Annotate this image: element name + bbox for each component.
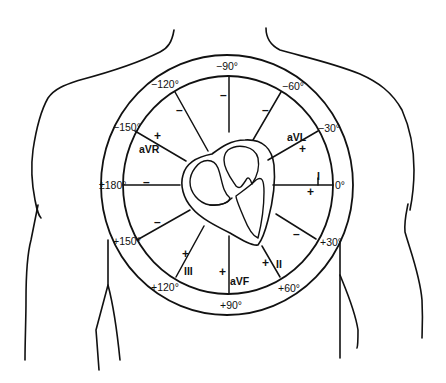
minus-sign-m120: – bbox=[176, 103, 183, 117]
lead-label-ii: II bbox=[276, 258, 282, 270]
heart-illustration bbox=[182, 140, 275, 245]
spoke-p150 bbox=[137, 210, 190, 240]
minus-sign-m60: – bbox=[262, 103, 269, 117]
axis-spokes bbox=[123, 76, 333, 293]
plus-sign-avf: + bbox=[219, 265, 226, 279]
hexaxial-diagram: −90° −60° −30° 0° +30° +60° +90° +120° +… bbox=[0, 0, 446, 383]
angle-label-m150: −150° bbox=[113, 121, 141, 133]
left-arm-outer bbox=[25, 205, 38, 360]
right-arm-inner bbox=[340, 275, 358, 348]
plus-sign-ii: + bbox=[262, 256, 269, 270]
minus-sign-m90: – bbox=[220, 88, 227, 102]
angle-label-m120: −120° bbox=[151, 78, 179, 90]
left-torso-side bbox=[96, 240, 108, 370]
lead-label-iii: III bbox=[184, 265, 193, 277]
angle-label-p30: +30° bbox=[320, 236, 342, 248]
angle-label-p120: +120° bbox=[151, 281, 179, 293]
angle-label-m90: −90° bbox=[216, 60, 238, 72]
lead-label-avf: aVF bbox=[230, 275, 250, 287]
angle-label-m30: −30° bbox=[318, 122, 340, 134]
lead-label-avr: aVR bbox=[139, 143, 160, 155]
angle-label-p60: +60° bbox=[278, 282, 300, 294]
plus-sign-avl: + bbox=[299, 142, 306, 156]
minus-sign-180: – bbox=[143, 175, 150, 189]
spoke-m120 bbox=[175, 92, 208, 151]
angle-label-0: 0° bbox=[335, 179, 345, 191]
angle-label-m60: −60° bbox=[282, 80, 304, 92]
angle-label-p150: +150° bbox=[113, 235, 141, 247]
minus-sign-p150: – bbox=[154, 215, 161, 229]
right-arm-outer bbox=[405, 204, 423, 338]
heart-left-chamber bbox=[190, 161, 230, 206]
heart-septum bbox=[210, 198, 232, 205]
minus-sign-p30: – bbox=[293, 227, 300, 241]
plus-sign-i: + bbox=[307, 185, 314, 199]
left-arm-inner bbox=[108, 285, 120, 360]
plus-sign-avr: + bbox=[154, 129, 161, 143]
lead-label-i: I bbox=[317, 170, 320, 182]
heart-right-chamber bbox=[224, 146, 259, 187]
angle-label-pm180: ±180° bbox=[99, 179, 126, 191]
torso-outline bbox=[25, 28, 422, 370]
plus-sign-iii: + bbox=[182, 247, 189, 261]
angle-label-p90: +90° bbox=[220, 299, 242, 311]
